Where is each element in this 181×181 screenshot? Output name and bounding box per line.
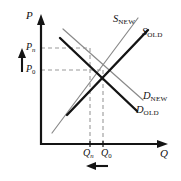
curve-label-supply-old: SOLD xyxy=(142,27,163,39)
x-axis-label: Q xyxy=(160,148,168,159)
curve-label-demand-old: DOLD xyxy=(136,105,159,117)
supply-demand-diagram: P Q Pn P0 Qn Q0 SNEW SOLD DNEW DOLD xyxy=(0,0,181,181)
tick-label-price-old-sub: 0 xyxy=(32,68,36,75)
curve-demand-old xyxy=(60,38,137,111)
tick-label-price-old: P0 xyxy=(26,64,36,75)
curve-label-demand-new-sub: NEW xyxy=(151,95,168,103)
curve-label-demand-new-base: D xyxy=(143,90,151,101)
tick-label-price-new: Pn xyxy=(26,42,36,53)
quantity-left-arrowhead-icon xyxy=(86,162,96,170)
curve-label-supply-old-sub: OLD xyxy=(147,31,162,39)
curve-label-demand-new: DNEW xyxy=(143,91,167,103)
curve-supply-new xyxy=(52,18,138,133)
tick-label-quantity-old: Q0 xyxy=(101,148,112,159)
guide-lines xyxy=(41,48,103,144)
curve-label-supply-new: SNEW xyxy=(113,14,135,26)
curve-label-demand-old-sub: OLD xyxy=(144,109,159,117)
price-up-arrowhead-icon xyxy=(18,48,26,58)
tick-label-quantity-new-sub: n xyxy=(90,152,94,159)
tick-label-quantity-old-sub: 0 xyxy=(108,152,112,159)
curve-demand-new xyxy=(63,29,143,100)
y-axis-label: P xyxy=(26,10,33,21)
tick-label-price-new-sub: n xyxy=(32,46,36,53)
tick-label-quantity-new: Qn xyxy=(83,148,94,159)
curve-label-demand-old-base: D xyxy=(136,104,144,115)
curve-label-supply-new-sub: NEW xyxy=(118,18,135,26)
y-axis-arrowhead-icon xyxy=(37,14,45,25)
